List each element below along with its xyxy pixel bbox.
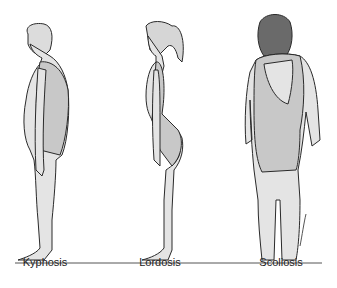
label-lordosis: Lordosis [120,256,200,268]
illustration [0,0,337,288]
artist-signature [300,214,306,246]
lordosis-figure [142,22,183,261]
label-scoliosis: Scoliosis [241,256,321,268]
scoliosis-figure [245,15,320,261]
kyphosis-figure [18,23,69,260]
label-kyphosis: Kyphosis [5,256,85,268]
